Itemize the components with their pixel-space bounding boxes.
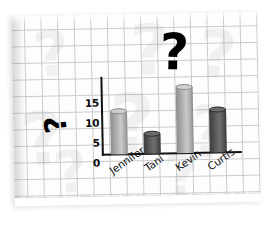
question-mark-annotation: ? bbox=[160, 27, 190, 77]
screenshot-root: ???????? ? ? 151050 JenniferTaniKevinCur… bbox=[0, 0, 267, 225]
y-tick-label: 0 bbox=[80, 158, 100, 168]
x-axis-category-labels: JenniferTaniKevinCurtis bbox=[105, 154, 256, 203]
bar bbox=[110, 108, 128, 154]
rotated-question-mark-annotation: ? bbox=[40, 114, 72, 135]
y-tick-label: 10 bbox=[79, 118, 99, 128]
bar-body bbox=[110, 111, 128, 154]
bar bbox=[143, 131, 160, 154]
graph-paper-sheet: ???????? ? ? 151050 JenniferTaniKevinCur… bbox=[11, 12, 261, 207]
y-axis-tick-labels: 151050 bbox=[79, 98, 100, 158]
y-tick-label: 15 bbox=[79, 98, 99, 108]
y-tick-label: 5 bbox=[80, 138, 100, 148]
bar bbox=[176, 84, 194, 153]
category-label: Tani bbox=[142, 152, 166, 173]
bar-body bbox=[176, 87, 194, 153]
bars-container bbox=[103, 74, 241, 155]
bar bbox=[209, 106, 227, 152]
bar-chart: 151050 JenniferTaniKevinCurtis bbox=[86, 74, 246, 206]
bar-body bbox=[209, 109, 227, 152]
